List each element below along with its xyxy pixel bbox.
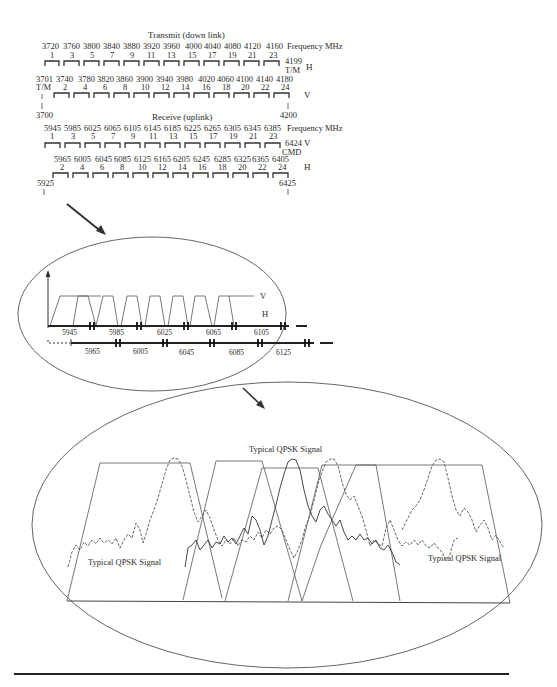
band-end-freq: 4200	[280, 110, 297, 120]
channel-number: 16	[198, 162, 207, 172]
channel-number: 7	[111, 131, 115, 141]
channel-number: 5	[91, 131, 95, 141]
channel-number: 1	[50, 50, 54, 60]
channel-number: 20	[241, 82, 250, 92]
polarization-v: V	[260, 291, 267, 301]
channel-number: 14	[178, 162, 187, 172]
polarization-h: H	[306, 62, 313, 72]
channel-number: 17	[209, 131, 218, 141]
channel-number: 24	[278, 162, 287, 172]
channel-number: 22	[261, 82, 270, 92]
telemetry-tag: T/M	[36, 82, 52, 92]
channel-number: 5	[90, 50, 94, 60]
band-end-freq: 6425	[279, 178, 296, 188]
freq-label: 6065	[206, 328, 221, 337]
channel-number: 7	[110, 50, 114, 60]
frequency-plan-diagram: Transmit (down link) 3720 3760 3800 3840…	[0, 0, 557, 687]
arrow-to-zoom-oval	[67, 204, 106, 235]
freq-label: 6025	[157, 328, 172, 337]
channel-number: 17	[208, 50, 217, 60]
channel-number: 6	[103, 82, 107, 92]
transmit-even-brackets	[42, 93, 289, 99]
channel-number: 2	[63, 82, 67, 92]
channel-number: 22	[258, 162, 267, 172]
channel-number: 21	[248, 50, 257, 60]
transmit-odd-brackets	[45, 61, 279, 66]
freq-label: 5945	[62, 328, 77, 337]
channel-number: 24	[281, 82, 290, 92]
polarization-h: H	[262, 309, 268, 319]
receive-even-brackets	[53, 173, 288, 178]
channel-number: 20	[238, 162, 247, 172]
freq-label: 6125	[276, 348, 291, 357]
channel-number: 13	[169, 131, 178, 141]
channel-number: 12	[161, 82, 170, 92]
frequency-unit-label: Frequency MHz	[287, 123, 343, 133]
channel-number: 3	[71, 131, 75, 141]
transmit-odd-channels: 1 3 5 7 9 11 13 15 17 19 21 23	[50, 50, 278, 60]
channel-number: 23	[269, 50, 278, 60]
qpsk-signal-label: Typical QPSK Signal	[249, 444, 323, 454]
polarization-v: V	[304, 138, 311, 148]
channel-number: 6	[100, 162, 104, 172]
band-start-freq: 5925	[37, 178, 54, 188]
detail-oval: Typical QPSK Signal Typical QPSK Signal …	[32, 382, 542, 668]
channel-number: 15	[188, 50, 197, 60]
channel-number: 14	[181, 82, 190, 92]
band-start-freq: 3700	[36, 110, 53, 120]
transmit-section: Transmit (down link) 3720 3760 3800 3840…	[36, 30, 343, 120]
channel-number: 8	[123, 82, 127, 92]
freq-label: 6045	[179, 348, 194, 357]
channel-number: 23	[269, 131, 278, 141]
channel-number: 21	[249, 131, 258, 141]
freq-label: 6085	[229, 348, 244, 357]
channel-number: 13	[167, 50, 176, 60]
freq-label: 6005	[133, 347, 148, 356]
polarization-v: V	[304, 90, 311, 100]
channel-number: 10	[138, 162, 147, 172]
receive-title: Receive (uplink)	[152, 112, 212, 122]
frequency-unit-label: Frequency MHz	[287, 41, 343, 51]
polarization-h: H	[304, 162, 311, 172]
channel-number: 15	[189, 131, 198, 141]
freq-label: 5985	[109, 328, 124, 337]
channel-number: 8	[120, 162, 124, 172]
receive-section: Receive (uplink) 5945 5985 6025 6065 610…	[37, 112, 343, 195]
zoom-oval: V H 5945 5985 6025 6065 6105 5965 6005	[18, 237, 333, 391]
channel-number: 16	[202, 82, 211, 92]
channel-number: 19	[229, 131, 238, 141]
freq-label: 6105	[254, 328, 269, 337]
arrow-to-detail-oval	[243, 388, 265, 409]
channel-number: 19	[228, 50, 237, 60]
channel-number: 9	[131, 131, 135, 141]
channel-number: 2	[60, 162, 64, 172]
channel-number: 10	[141, 82, 150, 92]
channel-number: 12	[158, 162, 167, 172]
channel-number: 3	[70, 50, 74, 60]
channel-number: 18	[218, 162, 227, 172]
qpsk-signal-label: Typical QPSK Signal	[428, 553, 502, 563]
receive-odd-brackets	[45, 143, 280, 148]
transmit-title: Transmit (down link)	[148, 30, 225, 40]
receive-even-freqs: 5965 6005 6045 6085 6125 6165 6205 6245 …	[54, 154, 289, 164]
freq-label: 5965	[85, 347, 100, 356]
channel-number: 9	[130, 50, 134, 60]
channel-number: 11	[149, 131, 157, 141]
channel-number: 11	[147, 50, 155, 60]
channel-number: 18	[222, 82, 231, 92]
channel-number: 1	[50, 131, 54, 141]
qpsk-signal-label: Typical QPSK Signal	[88, 557, 162, 567]
